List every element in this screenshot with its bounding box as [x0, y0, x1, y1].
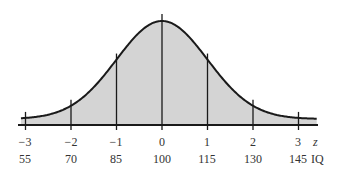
iq-tick-label: 130	[244, 153, 262, 165]
iq-tick-label: 70	[65, 153, 77, 165]
iq-axis-label: IQ	[311, 153, 324, 165]
iq-tick-label: 145	[289, 153, 307, 165]
z-tick-label: 1	[204, 136, 210, 148]
z-axis-label: z	[313, 136, 318, 148]
iq-tick-label: 55	[19, 153, 31, 165]
iq-tick-label: 100	[153, 153, 171, 165]
z-tick-label: −3	[19, 136, 32, 148]
normal-curve-chart	[0, 0, 341, 176]
iq-tick-label: 85	[110, 153, 122, 165]
z-tick-label: −1	[110, 136, 123, 148]
z-tick-label: 3	[295, 136, 301, 148]
z-tick-label: −2	[65, 136, 78, 148]
z-tick-label: 0	[159, 136, 165, 148]
z-tick-label: 2	[250, 136, 256, 148]
iq-tick-label: 115	[198, 153, 216, 165]
